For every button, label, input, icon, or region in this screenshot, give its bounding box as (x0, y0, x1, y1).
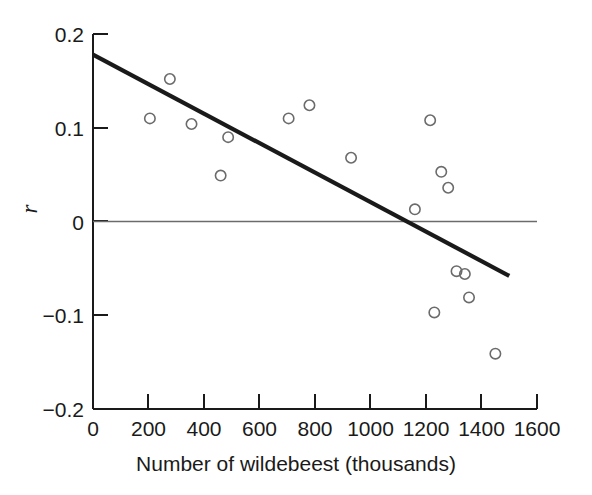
x-axis-title: Number of wildebeest (thousands) (0, 452, 592, 476)
trend-line (93, 55, 509, 276)
figure-container: 0.20.10−0.1−0.2 020040060080010001200140… (0, 0, 592, 495)
x-tick-label: 200 (131, 418, 166, 439)
data-point (283, 113, 293, 123)
x-tick-label: 800 (297, 418, 332, 439)
data-point (464, 292, 474, 302)
data-point (443, 183, 453, 193)
x-axis-ticks (93, 394, 537, 409)
y-tick-label: −0.1 (12, 305, 84, 326)
regression-trend-line (93, 55, 509, 276)
data-point (429, 307, 439, 317)
data-point (436, 167, 446, 177)
y-tick-label: 0.1 (12, 117, 84, 138)
data-point (223, 132, 233, 142)
x-tick-label: 0 (87, 418, 99, 439)
x-tick-label: 600 (242, 418, 277, 439)
data-point (304, 100, 314, 110)
x-tick-label: 1200 (403, 418, 450, 439)
data-point (346, 153, 356, 163)
data-point (410, 204, 420, 214)
data-point (425, 115, 435, 125)
y-tick-label: 0.2 (12, 24, 84, 45)
data-point (215, 170, 225, 180)
data-point-series (145, 74, 501, 359)
y-axis-title: r (17, 187, 43, 231)
data-point (186, 119, 196, 129)
x-tick-label: 1600 (514, 418, 561, 439)
x-tick-label: 1000 (347, 418, 394, 439)
x-tick-label: 400 (186, 418, 221, 439)
x-tick-label: 1400 (458, 418, 505, 439)
data-point (145, 113, 155, 123)
data-point (165, 74, 175, 84)
data-point (490, 348, 500, 358)
y-tick-label: −0.2 (12, 399, 84, 420)
